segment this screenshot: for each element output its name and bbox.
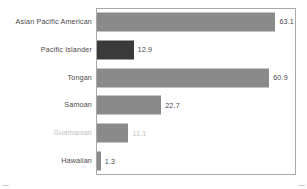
category-label-hawaiian: Hawaiian xyxy=(61,157,92,164)
category-label-pacific-islander: Pacific Islander xyxy=(41,46,92,53)
bar-hawaiian xyxy=(97,152,101,171)
bar-track: 22.7 xyxy=(97,96,295,115)
bar-track: 63.1 xyxy=(97,12,295,31)
value-label-pacific-islander: 12.9 xyxy=(138,46,153,53)
bar-tongan xyxy=(97,68,269,87)
bar-chart: Asian Pacific American 63.1 Pacific Isla… xyxy=(0,0,307,189)
category-label-asian-pacific-american: Asian Pacific American xyxy=(16,18,92,25)
value-label-guamanian: 11.1 xyxy=(132,130,146,137)
bar-row: Samoan 22.7 xyxy=(0,92,307,120)
value-label-samoan: 22.7 xyxy=(165,102,180,109)
category-label-tongan: Tongan xyxy=(68,74,92,81)
bar-row: Guamanian 11.1 xyxy=(0,119,307,147)
bar-track: 60.9 xyxy=(97,68,295,87)
bar-row: Pacific Islander 12.9 xyxy=(0,36,307,64)
bar-track: 1.3 xyxy=(97,152,295,171)
bar-row: Hawaiian 1.3 xyxy=(0,147,307,175)
value-label-asian-pacific-american: 63.1 xyxy=(279,18,294,25)
scan-artifact-left xyxy=(2,185,9,186)
category-label-samoan: Samoan xyxy=(64,102,92,109)
bar-rows: Asian Pacific American 63.1 Pacific Isla… xyxy=(0,8,307,175)
bar-row: Asian Pacific American 63.1 xyxy=(0,8,307,36)
value-label-tongan: 60.9 xyxy=(273,74,288,81)
bar-pacific-islander xyxy=(97,40,134,59)
bar-track: 12.9 xyxy=(97,40,295,59)
value-label-hawaiian: 1.3 xyxy=(105,157,115,164)
bar-guamanian xyxy=(97,124,128,143)
bar-asian-pacific-american xyxy=(97,12,275,31)
scan-artifact-right xyxy=(298,185,305,186)
bar-samoan xyxy=(97,96,161,115)
bar-track: 11.1 xyxy=(97,124,295,143)
category-label-guamanian: Guamanian xyxy=(53,130,92,137)
bar-row: Tongan 60.9 xyxy=(0,64,307,92)
